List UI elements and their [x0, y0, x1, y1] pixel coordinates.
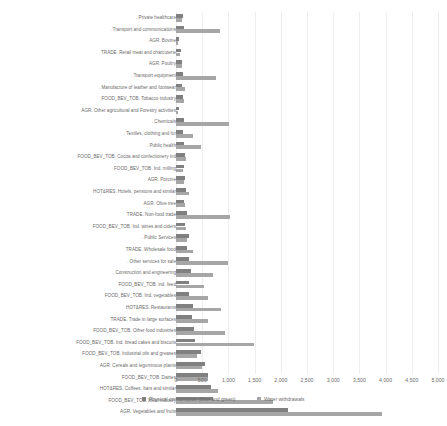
bar-water-withdrawals: [176, 296, 208, 300]
chart-row: . Manufacture of leather and footwear: [0, 82, 447, 94]
category-label: AGR. Porcine: [0, 177, 176, 182]
bar-water-withdrawals: [176, 343, 254, 347]
x-tick-label: 4,500: [405, 376, 418, 384]
x-tick-label: 3,000: [327, 376, 340, 384]
chart-row: . Construction and engineering: [0, 267, 447, 279]
category-label: . Public health: [0, 143, 176, 148]
legend-swatch-withdrawals: [257, 397, 261, 401]
bar-group: [176, 140, 438, 152]
chart-row: HOT&RES. Restaurants: [0, 302, 447, 314]
category-label: FOOD_BEV_TOB. Dairies: [0, 375, 176, 380]
bar-group: [176, 186, 438, 198]
category-label: FOOD_BEV_TOB. Industrial oils and grease…: [0, 351, 176, 356]
category-label: AGR. Poultry: [0, 61, 176, 66]
legend-label: Physical consumption (blue and green): [149, 396, 235, 402]
bar-group: [176, 279, 438, 291]
bar-water-withdrawals: [176, 354, 197, 358]
chart-row: AGR. Other agricultural and Forestry act…: [0, 105, 447, 117]
bar-water-withdrawals: [176, 319, 208, 323]
bar-group: [176, 325, 438, 337]
x-tick-label: 2,000: [274, 376, 287, 384]
bar-group: [176, 360, 438, 372]
chart-row: HOT&RES. Hotels, pensions and similar: [0, 186, 447, 198]
x-tick-label: 3,500: [353, 376, 366, 384]
x-axis: 05001,0001,5002,0002,5003,0003,5004,0004…: [176, 376, 438, 390]
category-label: AGR. Cereals and leguminous plants: [0, 363, 176, 368]
bar-water-withdrawals: [176, 180, 184, 184]
category-label: AGR. Bovine: [0, 38, 176, 43]
category-label: AGR. Other agricultural and Forestry act…: [0, 108, 176, 113]
category-label: . Transport and communications: [0, 27, 176, 32]
category-label: TRADE. Trade in large surfaces: [0, 317, 176, 322]
chart-row: . Public health: [0, 140, 447, 152]
bar-group: [176, 93, 438, 105]
category-label: FOOD_BEV_TOB. Tobacco industry: [0, 96, 176, 101]
bar-group: [176, 406, 438, 418]
chart-row: AGR. Bovine: [0, 35, 447, 47]
category-label: FOOD_BEV_TOB. Ind. bread cakes and biscu…: [0, 340, 176, 345]
bar-group: [176, 35, 438, 47]
bar-water-withdrawals: [176, 64, 182, 68]
bar-group: [176, 151, 438, 163]
bar-water-withdrawals: [176, 99, 184, 103]
category-label: . Transport equipment: [0, 73, 176, 78]
bar-group: [176, 70, 438, 82]
category-label: TRADE. Retail meat and charcuterie: [0, 50, 176, 55]
chart-row: FOOD_BEV_TOB. ind. feed: [0, 279, 447, 291]
bar-group: [176, 348, 438, 360]
bar-group: [176, 337, 438, 349]
category-label: HOT&RES. Coffees, bars and similar: [0, 386, 176, 391]
bar-water-withdrawals: [176, 261, 228, 265]
bar-water-withdrawals: [176, 87, 185, 91]
category-label: FOOD_BEV_TOB. ind. feed: [0, 282, 176, 287]
bar-water-withdrawals: [176, 192, 189, 196]
x-tick-label: 4,000: [379, 376, 392, 384]
category-label: . Construction and engineering: [0, 270, 176, 275]
chart-row: AGR. Porcine: [0, 174, 447, 186]
bar-group: [176, 302, 438, 314]
chart-row: . Public Services: [0, 232, 447, 244]
chart-row: FOOD_BEV_TOB. Ind. bread cakes and biscu…: [0, 337, 447, 349]
chart-row: . Transport and communications: [0, 24, 447, 36]
bar-group: [176, 24, 438, 36]
bar-group: [176, 128, 438, 140]
water-use-by-sector-chart: . Private healthcare. Transport and comm…: [0, 0, 447, 426]
legend-item[interactable]: Water withdrawals: [257, 396, 304, 402]
bar-group: [176, 47, 438, 59]
category-label: FOOD_BEV_TOB. Cocoa and confectionery in…: [0, 154, 176, 159]
category-label: HOT&RES. Restaurants: [0, 305, 176, 310]
bar-group: [176, 58, 438, 70]
category-label: FOOD_BEV_TOB. Ind. wines and ciders: [0, 224, 176, 229]
category-label: . Private healthcare: [0, 15, 176, 20]
category-label: . Textiles, clothing and fur: [0, 131, 176, 136]
bar-group: [176, 116, 438, 128]
bar-group: [176, 244, 438, 256]
bar-water-withdrawals: [176, 215, 230, 219]
bar-water-withdrawals: [176, 76, 216, 80]
chart-row: . Transport equipment: [0, 70, 447, 82]
bar-water-withdrawals: [176, 285, 204, 289]
bar-group: [176, 163, 438, 175]
x-tick-label: 1,500: [248, 376, 261, 384]
chart-row: . Textiles, clothing and fur: [0, 128, 447, 140]
bar-water-withdrawals: [176, 169, 183, 173]
chart-row: FOOD_BEV_TOB. Ind. vegetables: [0, 290, 447, 302]
x-tick-label: 5,000: [432, 376, 445, 384]
bar-group: [176, 232, 438, 244]
chart-row: TRADE. Trade in large surfaces: [0, 313, 447, 325]
category-label: . Other services for sale: [0, 259, 176, 264]
bar-water-withdrawals: [176, 29, 220, 33]
chart-row: FOOD_BEV_TOB. Ind. wines and ciders: [0, 221, 447, 233]
bar-group: [176, 313, 438, 325]
category-label: FOOD_BEV_TOB. Ind. vegetables: [0, 293, 176, 298]
bar-group: [176, 82, 438, 94]
legend-label: Water withdrawals: [264, 396, 305, 402]
legend-item[interactable]: Physical consumption (blue and green): [142, 396, 235, 402]
category-label: AGR. Vegetables and fruits: [0, 409, 176, 414]
chart-legend: Physical consumption (blue and green)Wat…: [0, 396, 447, 402]
bar-group: [176, 12, 438, 24]
category-label: HOT&RES. Hotels, pensions and similar: [0, 189, 176, 194]
bar-group: [176, 209, 438, 221]
category-label: TRADE. Non-food trade: [0, 212, 176, 217]
bar-water-withdrawals: [176, 122, 229, 126]
